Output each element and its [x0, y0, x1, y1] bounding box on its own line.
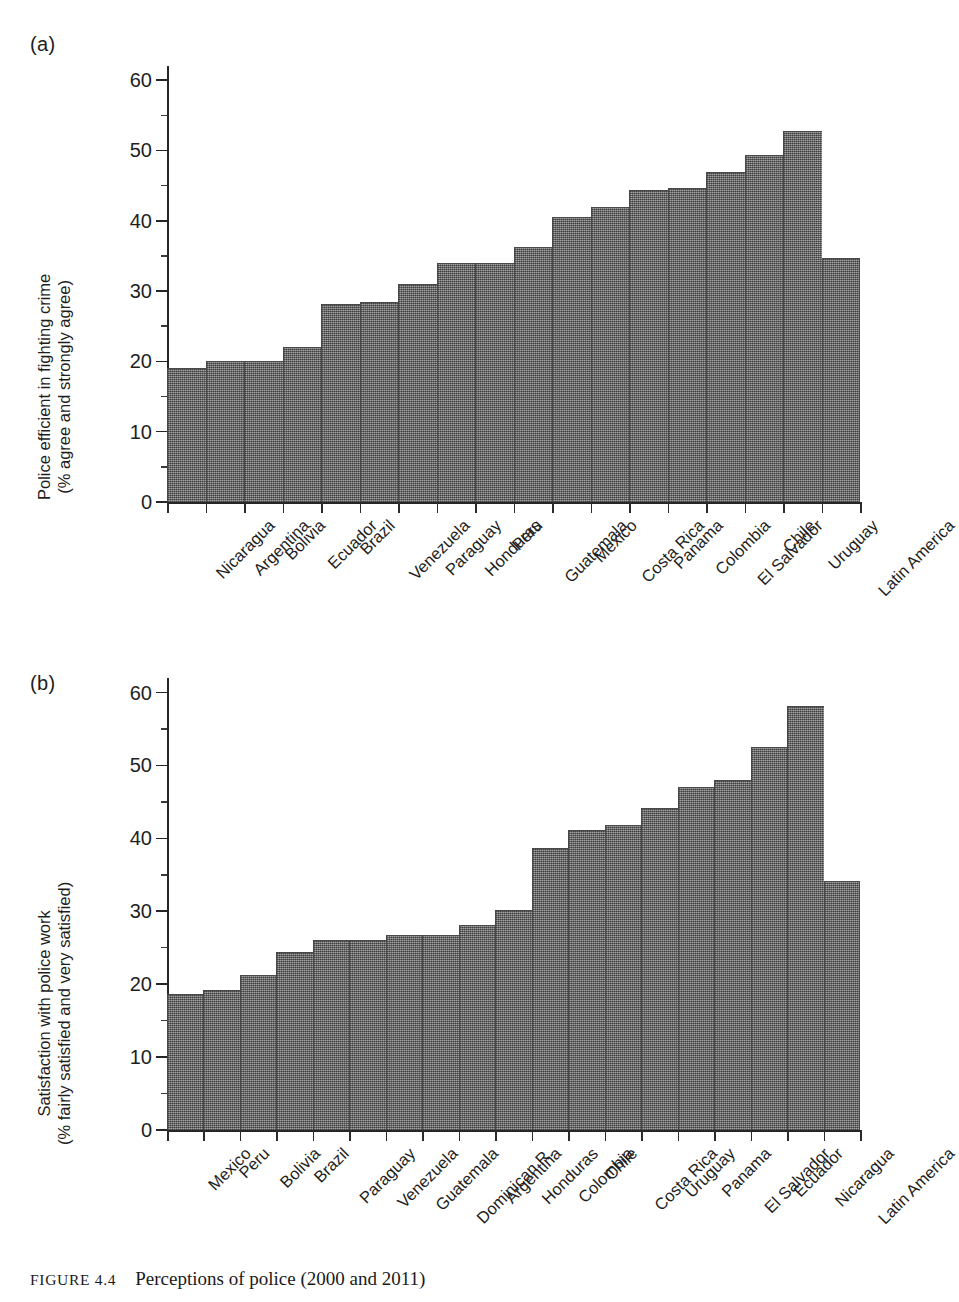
bar-latin-america	[822, 258, 861, 502]
y-minor-tick-35	[161, 874, 167, 875]
y-minor-tick-5	[161, 1093, 167, 1094]
x-tick-19	[860, 1130, 862, 1141]
y-minor-tick-5	[161, 466, 167, 467]
y-tick-50	[156, 765, 167, 767]
y-tick-20	[156, 983, 167, 985]
panel-a-bars	[167, 66, 860, 502]
y-tick-label-60: 60	[130, 681, 152, 704]
bar-uruguay	[783, 131, 822, 502]
x-tick-13	[641, 1130, 643, 1141]
bar-chile	[745, 155, 784, 502]
bar-guatemala	[386, 935, 422, 1130]
bar-venezuela	[349, 940, 385, 1130]
x-tick-7	[437, 502, 439, 513]
x-tick-8	[475, 502, 477, 513]
y-minor-tick-35	[161, 255, 167, 256]
x-tick-9	[495, 1130, 497, 1141]
y-tick-30	[156, 290, 167, 292]
x-tick-7	[422, 1130, 424, 1141]
panel-b: (b) Satisfaction with police work (% fai…	[0, 630, 876, 1255]
x-tick-9	[514, 502, 516, 513]
y-tick-40	[156, 838, 167, 840]
x-tick-6	[398, 502, 400, 513]
y-tick-label-20: 20	[130, 350, 152, 373]
panel-a-y-axis-title: Police efficient in fighting crime (% ag…	[34, 274, 74, 500]
y-tick-10	[156, 431, 167, 433]
y-tick-label-60: 60	[130, 69, 152, 92]
x-tick-17	[822, 502, 824, 513]
y-tick-label-50: 50	[130, 139, 152, 162]
bar-nicaragua	[167, 368, 206, 502]
bar-ecuador	[283, 347, 322, 502]
bar-mexico	[552, 217, 591, 502]
x-tick-5	[360, 502, 362, 513]
bar-brazil	[276, 952, 312, 1130]
y-tick-label-40: 40	[130, 209, 152, 232]
y-tick-label-50: 50	[130, 754, 152, 777]
y-tick-10	[156, 1056, 167, 1058]
x-tick-10	[532, 1130, 534, 1141]
panel-a-y-axis-title-line2: (% agree and strongly agree)	[54, 274, 74, 500]
x-tick-13	[668, 502, 670, 513]
x-tick-4	[321, 502, 323, 513]
bar-colombia	[532, 848, 568, 1130]
y-tick-label-40: 40	[130, 827, 152, 850]
panel-b-y-axis-title: Satisfaction with police work (% fairly …	[34, 882, 74, 1145]
bar-panama	[629, 190, 668, 502]
bar-colombia	[668, 188, 707, 502]
x-tick-18	[860, 502, 862, 513]
y-tick-60	[156, 692, 167, 694]
x-label-uruguay: Uruguay	[824, 516, 882, 574]
x-tick-3	[276, 1130, 278, 1141]
x-tick-10	[552, 502, 554, 513]
bar-latin-america	[824, 881, 860, 1130]
y-minor-tick-55	[161, 115, 167, 116]
x-tick-15	[714, 1130, 716, 1141]
x-tick-11	[568, 1130, 570, 1141]
bar-nicaragua	[787, 706, 823, 1130]
bar-bolivia	[244, 361, 283, 502]
panel-a-letter: (a)	[30, 33, 55, 56]
bar-dominican-r	[422, 935, 458, 1130]
y-minor-tick-25	[161, 947, 167, 948]
bar-bolivia	[240, 975, 276, 1130]
y-tick-label-30: 30	[130, 280, 152, 303]
x-tick-12	[629, 502, 631, 513]
panel-a: (a) Police efficient in fighting crime (…	[0, 0, 876, 640]
bar-el-salvador	[706, 172, 745, 502]
bar-argentina	[459, 925, 495, 1130]
y-tick-30	[156, 910, 167, 912]
x-tick-0	[167, 502, 169, 513]
figure-caption-title: Perceptions of police (2000 and 2011)	[135, 1268, 425, 1289]
panel-a-plot-area: 0102030405060	[167, 66, 860, 502]
panel-a-y-axis-title-line1: Police efficient in fighting crime	[34, 274, 54, 500]
panel-b-bars	[167, 678, 860, 1130]
panel-b-plot-area: 0102030405060	[167, 678, 860, 1130]
bar-costa-rica	[605, 825, 641, 1130]
x-tick-16	[751, 1130, 753, 1141]
y-minor-tick-15	[161, 1020, 167, 1021]
bar-venezuela	[360, 302, 399, 502]
x-label-latin-america: Latin America	[874, 516, 958, 600]
x-tick-5	[349, 1130, 351, 1141]
figure-caption: FIGURE 4.4 Perceptions of police (2000 a…	[30, 1268, 425, 1290]
x-tick-12	[605, 1130, 607, 1141]
y-tick-label-10: 10	[130, 1046, 152, 1069]
bar-mexico	[167, 994, 203, 1130]
bar-uruguay	[641, 808, 677, 1130]
bar-panama	[678, 787, 714, 1130]
bar-paraguay	[313, 940, 349, 1130]
x-tick-14	[678, 1130, 680, 1141]
bar-peru	[475, 263, 514, 502]
figure-caption-label: FIGURE 4.4	[30, 1271, 116, 1288]
x-tick-16	[783, 502, 785, 513]
x-tick-8	[459, 1130, 461, 1141]
bar-guatemala	[514, 247, 553, 502]
bar-chile	[568, 830, 604, 1130]
x-tick-17	[787, 1130, 789, 1141]
x-tick-3	[283, 502, 285, 513]
y-minor-tick-45	[161, 185, 167, 186]
y-tick-label-30: 30	[130, 900, 152, 923]
panel-b-letter: (b)	[30, 672, 55, 695]
bar-honduras	[437, 263, 476, 502]
